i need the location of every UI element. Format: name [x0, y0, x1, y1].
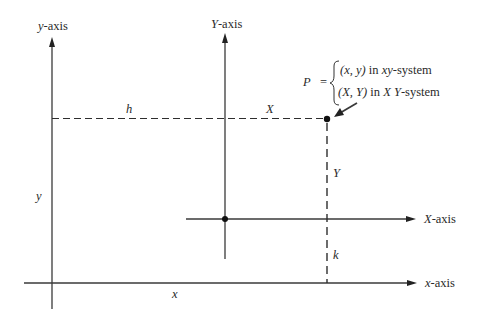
- y-axis-label: y-axis: [36, 19, 68, 33]
- point-name: P: [302, 75, 311, 89]
- x-axis: [24, 280, 417, 286]
- label-Y: Y: [333, 166, 342, 180]
- new-origin-point: [222, 216, 228, 222]
- Y-axis-label: Y-axis: [211, 17, 242, 31]
- X-axis-label: X-axis: [423, 212, 456, 226]
- xy-coords-line: (x, y) in xy-system: [340, 63, 432, 77]
- Y-axis: [222, 33, 228, 259]
- XY-coords-line: (X, Y) in X Y-system: [338, 85, 440, 99]
- label-X: X: [265, 102, 275, 116]
- pointer-arrow-icon: [334, 108, 344, 117]
- coordinate-diagram: y-axis x-axis Y-axis X-axis h X Y k y x …: [0, 0, 479, 321]
- Y-axis-arrow-icon: [222, 33, 228, 43]
- X-axis-arrow-icon: [406, 216, 416, 222]
- point-definition: P = (x, y) in xy-system (X, Y) in X Y-sy…: [302, 61, 440, 105]
- x-axis-arrow-icon: [407, 280, 417, 286]
- y-axis-arrow-icon: [49, 37, 55, 47]
- equals-sign: =: [320, 75, 327, 89]
- label-y: y: [34, 189, 42, 203]
- x-axis-label: x-axis: [424, 276, 455, 290]
- label-h: h: [126, 102, 132, 116]
- label-x: x: [171, 287, 178, 301]
- y-axis: [49, 37, 55, 309]
- X-axis: [186, 216, 416, 222]
- label-k: k: [333, 248, 339, 262]
- point-p: [324, 116, 330, 122]
